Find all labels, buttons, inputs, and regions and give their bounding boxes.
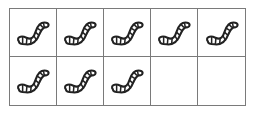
ten-frame xyxy=(9,8,246,106)
frame-cell xyxy=(10,9,57,57)
worm-icon xyxy=(107,17,147,49)
frame-cell xyxy=(57,57,104,105)
frame-cell xyxy=(198,9,245,57)
worm-icon xyxy=(60,65,100,97)
frame-cell-empty xyxy=(151,57,198,105)
frame-cell xyxy=(104,9,151,57)
worm-icon xyxy=(154,17,194,49)
frame-cell xyxy=(10,57,57,105)
worm-icon xyxy=(202,17,242,49)
frame-cell xyxy=(104,57,151,105)
frame-cell-empty xyxy=(198,57,245,105)
worm-icon xyxy=(60,17,100,49)
frame-cell xyxy=(57,9,104,57)
worm-icon xyxy=(107,65,147,97)
worm-icon xyxy=(13,65,53,97)
frame-cell xyxy=(151,9,198,57)
worm-icon xyxy=(13,17,53,49)
